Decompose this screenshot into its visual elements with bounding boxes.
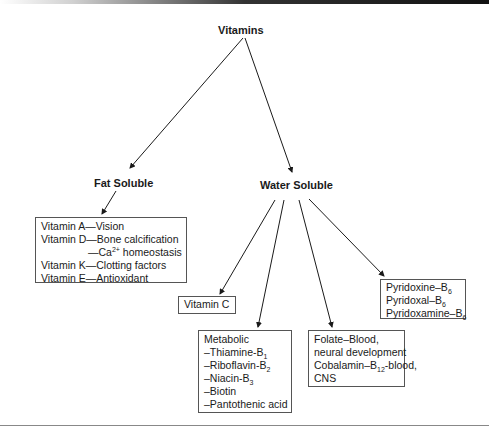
metabolic-pantothenic: –Pantothenic acid <box>204 398 286 411</box>
metabolic-biotin: –Biotin <box>204 385 286 398</box>
arrow-to-fat-soluble <box>130 38 243 168</box>
folate-line-1: Folate–Blood, <box>314 333 399 346</box>
category-label-fat-soluble: Fat Soluble <box>94 177 153 189</box>
metabolic-title: Metabolic <box>204 333 286 346</box>
bottom-divider <box>0 425 489 426</box>
arrow-to-vitamin-c <box>220 200 275 294</box>
folate-cobalamin-box: Folate–Blood, neural development Cobalam… <box>308 330 405 387</box>
fat-line-k: Vitamin K—Clotting factors <box>41 259 181 272</box>
fat-line-d: Vitamin D—Bone calcification <box>41 233 181 246</box>
fat-soluble-box: Vitamin A—Vision Vitamin D—Bone calcific… <box>35 217 187 283</box>
arrow-to-metabolic <box>258 200 284 327</box>
arrow-to-fat-box <box>102 191 116 214</box>
b6-box: Pyridoxine–B6 Pyridoxal–B6 Pyridoxamine–… <box>380 279 466 319</box>
fat-line-a: Vitamin A—Vision <box>41 220 181 233</box>
b6-pyridoxamine: Pyridoxamine–B6 <box>386 307 460 320</box>
folate-line-2: neural development <box>314 346 399 359</box>
metabolic-box: Metabolic –Thiamine-B1 –Riboflavin-B2 –N… <box>198 330 292 413</box>
metabolic-thiamine: –Thiamine-B1 <box>204 346 286 359</box>
b6-pyridoxine: Pyridoxine–B6 <box>386 281 460 294</box>
b6-pyridoxal: Pyridoxal–B6 <box>386 294 460 307</box>
vitamin-c-label: Vitamin C <box>184 298 230 311</box>
arrow-to-water-soluble <box>245 38 292 172</box>
root-label-vitamins: Vitamins <box>218 24 264 36</box>
cns-line: CNS <box>314 372 399 385</box>
metabolic-niacin: –Niacin-B3 <box>204 372 286 385</box>
metabolic-riboflavin: –Riboflavin-B2 <box>204 359 286 372</box>
arrow-to-b6 <box>309 199 384 276</box>
arrow-to-folate <box>299 200 332 327</box>
category-label-water-soluble: Water Soluble <box>260 179 333 191</box>
fat-line-ca: —Ca2+ homeostasis <box>41 246 181 259</box>
vitamin-c-box: Vitamin C <box>178 296 236 314</box>
cobalamin-line: Cobalamin–B12-blood, <box>314 359 399 372</box>
fat-line-e: Vitamin E—Antioxidant <box>41 272 181 285</box>
